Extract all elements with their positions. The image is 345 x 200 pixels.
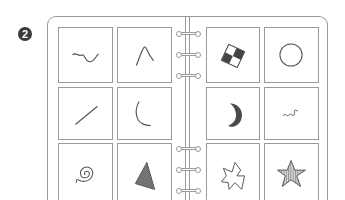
striped-star-icon (265, 144, 318, 200)
card-left-3[interactable] (58, 87, 113, 140)
card-right-2[interactable] (264, 27, 319, 83)
card-right-6[interactable] (264, 143, 319, 200)
hatched-triangle-icon (118, 144, 171, 200)
card-left-6[interactable] (117, 143, 172, 200)
binder-ring (178, 53, 199, 56)
card-left-2[interactable] (117, 27, 172, 83)
card-left-5[interactable] (58, 143, 113, 200)
binder-ring (178, 32, 199, 35)
card-right-1[interactable] (206, 27, 260, 83)
binder-spine (185, 16, 190, 200)
binder-ring (178, 168, 199, 171)
binder-ring (178, 147, 199, 150)
spiral-icon (59, 144, 112, 200)
binder-ring (178, 189, 199, 192)
card-right-4[interactable] (264, 87, 319, 140)
small-squiggle-icon (265, 88, 318, 139)
circle-outline-icon (265, 28, 318, 82)
card-left-4[interactable] (117, 87, 172, 140)
card-right-3[interactable] (206, 87, 260, 140)
step-number-badge: 2 (18, 27, 32, 41)
irregular-polygon-icon (207, 144, 259, 200)
squiggle-wave-icon (59, 28, 112, 82)
peak-curve-icon (118, 28, 171, 82)
checkered-diamond-icon (207, 28, 259, 82)
card-right-5[interactable] (206, 143, 260, 200)
crescent-moon-icon (207, 88, 259, 139)
card-left-1[interactable] (58, 27, 113, 83)
binder-ring (178, 74, 199, 77)
diagonal-line-icon (59, 88, 112, 139)
hook-curve-icon (118, 88, 171, 139)
